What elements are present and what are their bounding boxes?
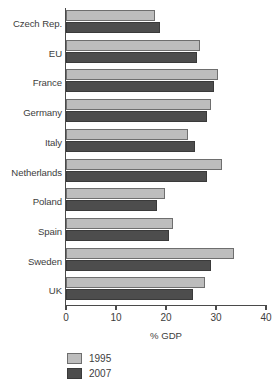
category-label: Czech Rep. xyxy=(0,19,62,29)
x-tick-mark xyxy=(65,305,66,310)
category-label: EU xyxy=(0,49,62,59)
bar-2007-netherlands xyxy=(66,171,207,182)
bar-2007-italy xyxy=(66,141,195,152)
bar-1995-poland xyxy=(66,188,165,199)
legend-label: 1995 xyxy=(89,352,111,365)
horizontal-bar-chart: Czech Rep.EUFranceGermanyItalyNetherland… xyxy=(0,0,279,388)
x-tick-label: 30 xyxy=(199,312,233,323)
bar-1995-uk xyxy=(66,277,205,288)
category-label: Italy xyxy=(0,138,62,148)
bar-2007-uk xyxy=(66,289,193,300)
legend-item-2007: 2007 xyxy=(67,367,207,382)
category-label: Netherlands xyxy=(0,168,62,178)
category-axis-labels: Czech Rep.EUFranceGermanyItalyNetherland… xyxy=(0,8,62,305)
x-tick-label: 0 xyxy=(49,312,83,323)
x-tick-mark xyxy=(115,305,116,310)
x-tick-mark xyxy=(265,305,266,310)
legend-label: 2007 xyxy=(89,367,111,380)
bar-2007-spain xyxy=(66,230,169,241)
bar-1995-czech-rep xyxy=(66,10,155,21)
legend-swatch-2007 xyxy=(67,368,82,379)
bar-1995-sweden xyxy=(66,248,234,259)
bar-2007-germany xyxy=(66,111,207,122)
x-axis-title: % GDP xyxy=(66,330,266,341)
category-label: Spain xyxy=(0,227,62,237)
x-tick-label: 20 xyxy=(149,312,183,323)
bar-1995-eu xyxy=(66,40,200,51)
plot-area xyxy=(66,8,266,305)
legend-item-1995: 1995 xyxy=(67,352,207,367)
bar-1995-france xyxy=(66,69,218,80)
category-label: Sweden xyxy=(0,257,62,267)
category-label: UK xyxy=(0,286,62,296)
bar-2007-france xyxy=(66,81,214,92)
legend-swatch-1995 xyxy=(67,353,82,364)
x-tick-mark xyxy=(165,305,166,310)
bar-1995-germany xyxy=(66,99,211,110)
bar-1995-spain xyxy=(66,218,173,229)
bar-1995-netherlands xyxy=(66,159,222,170)
bar-2007-eu xyxy=(66,52,197,63)
x-tick-mark xyxy=(215,305,216,310)
bar-2007-sweden xyxy=(66,260,211,271)
category-label: Germany xyxy=(0,108,62,118)
category-label: France xyxy=(0,78,62,88)
bar-2007-poland xyxy=(66,200,157,211)
x-tick-label: 10 xyxy=(99,312,133,323)
x-tick-label: 40 xyxy=(249,312,279,323)
category-label: Poland xyxy=(0,197,62,207)
bar-1995-italy xyxy=(66,129,188,140)
bar-2007-czech-rep xyxy=(66,22,160,33)
chart-legend: 19952007 xyxy=(67,352,207,382)
